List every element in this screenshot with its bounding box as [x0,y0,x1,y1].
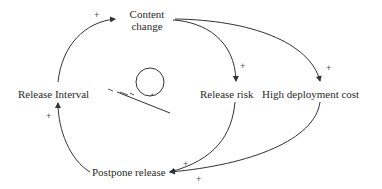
edge-content-change-to-high-deployment-cost [175,19,320,81]
node-content-change-line2: change [122,20,172,32]
polarity-high-deployment-cost-to-postpone-release: + [196,175,201,184]
node-release-risk: Release risk [200,88,253,100]
polarity-content-change-to-release-risk: + [240,62,245,71]
polarity-postpone-release-to-release-interval: + [46,112,51,121]
edge-postpone-release-to-release-interval [58,103,90,172]
edge-high-deployment-cost-to-postpone-release [170,102,320,172]
edge-release-risk-to-postpone-release [170,102,235,172]
node-high-deployment-cost: High deployment cost [262,88,359,100]
balancing-loop-icon [108,68,170,113]
polarity-release-risk-to-postpone-release: + [183,160,188,169]
edge-content-change-to-release-risk [173,20,236,81]
causal-loop-diagram: Content change Release Interval Release … [0,0,382,189]
node-content-change: Content change [122,8,172,32]
node-release-interval: Release Interval [18,88,89,100]
node-content-change-line1: Content [122,8,172,20]
polarity-content-change-to-high-deployment-cost: + [326,64,331,73]
polarity-release-interval-to-content-change: + [94,11,99,20]
node-postpone-release: Postpone release [92,166,166,178]
edge-release-interval-to-content-change [58,19,115,82]
